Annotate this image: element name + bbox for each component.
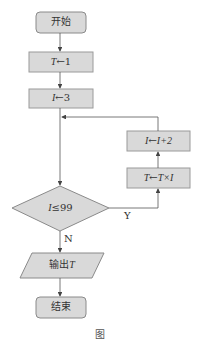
- assign-arrow: ←: [56, 56, 64, 67]
- update-t-expr: T×I: [158, 172, 174, 183]
- output-prefix: 输出: [49, 259, 69, 270]
- output-label: 输出T: [20, 260, 104, 270]
- decision-op: ≤: [52, 202, 60, 213]
- init-t-value: 1: [65, 56, 71, 67]
- start-label: 开始: [36, 17, 86, 27]
- output-var: T: [69, 259, 75, 270]
- update-i-label: I←I+2: [127, 136, 190, 146]
- assign-arrow: ←: [55, 92, 63, 103]
- update-i-expr: I+2: [157, 135, 172, 146]
- assign-arrow: ←: [148, 135, 156, 146]
- end-label: 结束: [36, 302, 86, 312]
- init-i-value: 3: [64, 92, 70, 103]
- init-t-label: T←1: [29, 57, 93, 67]
- assign-arrow: ←: [149, 172, 157, 183]
- yes-label: Y: [124, 211, 131, 221]
- decision-label: I≤99: [12, 203, 109, 213]
- init-i-label: I←3: [29, 93, 93, 103]
- no-label: N: [64, 234, 73, 244]
- decision-value: 99: [60, 202, 73, 213]
- figure-caption: 图: [82, 330, 118, 340]
- update-t-label: T←T×I: [127, 173, 190, 183]
